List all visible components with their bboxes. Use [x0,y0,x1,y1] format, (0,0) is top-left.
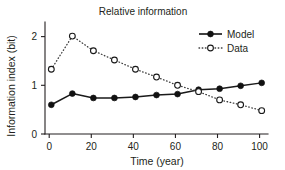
data-point-data [90,48,96,54]
x-tick-label: 100 [251,141,268,152]
y-tick-label: 1 [31,80,37,91]
y-axis-ticks: 012 [31,31,45,139]
legend-label-model: Model [227,29,254,40]
legend-data-marker-icon [208,45,214,51]
relative-information-line-chart: Relative information Information index (… [0,0,285,170]
data-point-data [238,102,244,108]
data-point-data [133,66,139,72]
data-point-data [217,97,223,103]
data-point-model [112,95,118,101]
data-point-data [48,66,54,72]
data-point-data [154,74,160,80]
legend-item-model: Model [199,29,254,40]
x-tick-label: 60 [170,141,182,152]
data-point-model [238,83,244,89]
chart-legend: Model Data [199,29,254,54]
chart-title: Relative information [99,6,187,17]
data-point-data [175,82,181,88]
data-point-data [112,57,118,63]
data-point-data [69,33,75,39]
data-point-model [90,95,96,101]
x-tick-label: 20 [86,141,98,152]
legend-model-marker-icon [208,31,214,37]
legend-item-data: Data [199,43,249,54]
data-point-model [69,91,75,97]
data-point-data [259,108,265,114]
x-tick-label: 40 [128,141,140,152]
legend-label-data: Data [227,43,249,54]
y-tick-label: 2 [31,31,37,42]
x-axis-ticks: 020406080100 [46,134,268,152]
data-point-model [154,92,160,98]
y-axis-label: Information index (bit) [5,35,17,137]
y-tick-label: 0 [31,129,37,140]
x-axis-label: Time (year) [130,155,183,167]
data-point-model [175,91,181,97]
x-tick-label: 80 [212,141,224,152]
x-tick-label: 0 [46,141,52,152]
data-point-model [217,86,223,92]
data-point-model [133,94,139,100]
data-point-data [196,89,202,95]
chart-figure: Relative information Information index (… [0,0,285,170]
data-point-model [48,102,54,108]
data-point-model [259,80,265,86]
